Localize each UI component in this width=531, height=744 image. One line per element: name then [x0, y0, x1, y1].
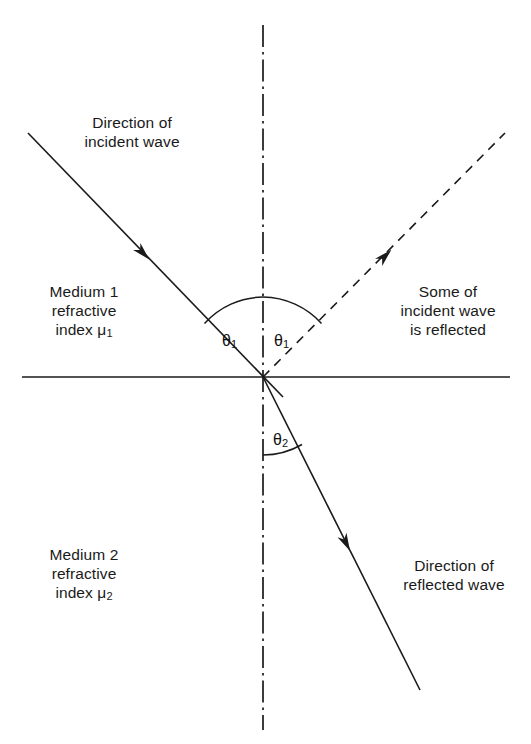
- theta1-reflected-subscript: 1: [283, 338, 289, 350]
- refracted-direction-line-2: reflected wave: [381, 575, 527, 594]
- medium-1-label: Medium 1 refractive index μ1: [22, 282, 146, 339]
- medium-2-line-3: index μ2: [22, 583, 146, 602]
- medium-1-index-prefix: index: [55, 321, 97, 338]
- reflection-note-line-2: incident wave: [375, 301, 521, 320]
- medium-2-mu-subscript: 2: [106, 590, 112, 602]
- reflection-note-label: Some of incident wave is reflected: [375, 282, 521, 339]
- medium-2-line-2: refractive: [22, 564, 146, 583]
- medium-2-line-1: Medium 2: [22, 545, 146, 564]
- medium-1-mu-subscript: 1: [106, 327, 112, 339]
- theta1-incident-arc: [205, 297, 264, 324]
- medium-1-line-3: index μ1: [22, 320, 146, 339]
- reflected-ray-arrow-icon: [375, 246, 395, 266]
- medium-1-line-1: Medium 1: [22, 282, 146, 301]
- theta1-reflected-arc: [263, 297, 322, 324]
- refracted-ray-arrow-icon: [337, 533, 354, 554]
- refracted-direction-line-1: Direction of: [381, 556, 527, 575]
- reflection-note-line-1: Some of: [375, 282, 521, 301]
- incident-direction-line-2: incident wave: [62, 132, 202, 151]
- theta1-incident-label: θ1: [222, 333, 237, 350]
- refracted-direction-label: Direction of reflected wave: [381, 556, 527, 594]
- theta2-refracted-label: θ2: [273, 432, 288, 449]
- medium-2-index-prefix: index: [55, 584, 97, 601]
- refracted-ray: [263, 377, 420, 690]
- incident-direction-line-1: Direction of: [62, 113, 202, 132]
- incident-ray: [28, 133, 283, 397]
- reflection-note-line-3: is reflected: [375, 320, 521, 339]
- ray-diagram-svg: [0, 0, 531, 744]
- theta1-incident-subscript: 1: [231, 338, 237, 350]
- medium-2-label: Medium 2 refractive index μ2: [22, 545, 146, 602]
- theta2-refracted-subscript: 2: [282, 437, 288, 449]
- diagram-canvas: Direction of incident wave Medium 1 refr…: [0, 0, 531, 744]
- theta2-refracted-symbol: θ: [273, 431, 282, 448]
- incident-direction-label: Direction of incident wave: [62, 113, 202, 151]
- theta1-reflected-symbol: θ: [274, 332, 283, 349]
- medium-1-line-2: refractive: [22, 301, 146, 320]
- theta1-incident-symbol: θ: [222, 332, 231, 349]
- theta1-reflected-label: θ1: [274, 333, 289, 350]
